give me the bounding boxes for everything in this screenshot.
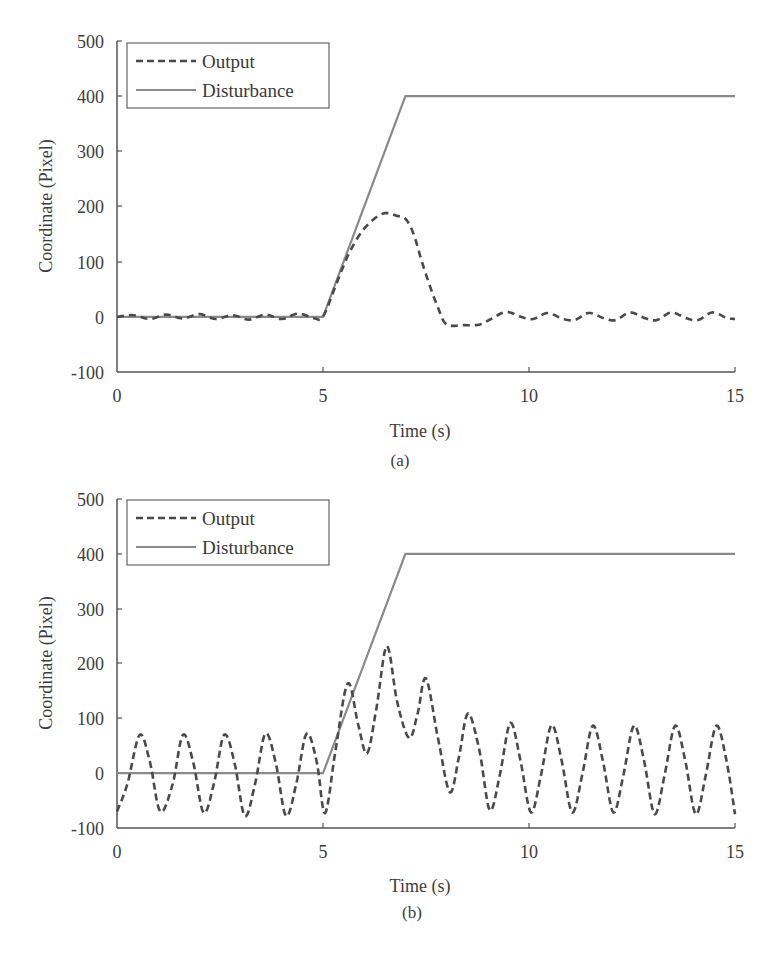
chart-a-xtick-labels: 0 5 10 15 bbox=[113, 386, 745, 406]
chart-b-ytick-labels: 500 400 300 200 100 0 -100 bbox=[71, 490, 104, 839]
ytick-label: 300 bbox=[77, 600, 104, 620]
disturbance-line bbox=[117, 554, 735, 773]
xtick-label: 5 bbox=[319, 842, 328, 862]
ytick-label: 200 bbox=[77, 197, 104, 217]
ytick-label: 400 bbox=[77, 545, 104, 565]
ytick-label: 100 bbox=[77, 253, 104, 273]
chart-b-xtick-labels: 0 5 10 15 bbox=[113, 842, 745, 862]
disturbance-line bbox=[117, 96, 735, 317]
xtick-label: 0 bbox=[113, 842, 122, 862]
xtick-label: 10 bbox=[520, 386, 538, 406]
ytick-label: 100 bbox=[77, 709, 104, 729]
figure-caption: (a) bbox=[391, 451, 410, 470]
legend-output-label: Output bbox=[202, 51, 256, 72]
figure-caption: (b) bbox=[402, 903, 422, 922]
xtick-label: 15 bbox=[726, 842, 744, 862]
legend-disturbance-label: Disturbance bbox=[202, 537, 294, 558]
ytick-label: 300 bbox=[77, 142, 104, 162]
chart-a-svg: 500 400 300 200 100 0 -100 0 5 10 15 Tim… bbox=[0, 0, 784, 485]
ytick-label: 500 bbox=[77, 32, 104, 52]
legend-output-label: Output bbox=[202, 508, 256, 529]
y-axis-label: Coordinate (Pixel) bbox=[36, 139, 57, 272]
output-line bbox=[117, 213, 735, 326]
x-axis-label: Time (s) bbox=[390, 876, 451, 897]
ytick-label: -100 bbox=[71, 819, 104, 839]
ytick-label: 500 bbox=[77, 490, 104, 510]
ytick-label: 200 bbox=[77, 654, 104, 674]
ytick-label: 0 bbox=[95, 764, 104, 784]
chart-a-ytick-labels: 500 400 300 200 100 0 -100 bbox=[71, 32, 104, 383]
xtick-label: 5 bbox=[319, 386, 328, 406]
legend-disturbance-label: Disturbance bbox=[202, 80, 294, 101]
ytick-label: 0 bbox=[95, 308, 104, 328]
x-axis-label: Time (s) bbox=[390, 421, 451, 442]
ytick-label: 400 bbox=[77, 87, 104, 107]
figure-b: 500 400 300 200 100 0 -100 0 5 10 15 Tim… bbox=[0, 485, 784, 969]
output-line bbox=[117, 646, 735, 816]
xtick-label: 10 bbox=[520, 842, 538, 862]
chart-b-svg: 500 400 300 200 100 0 -100 0 5 10 15 Tim… bbox=[0, 485, 784, 969]
chart-a-legend: Output Disturbance bbox=[127, 43, 329, 108]
ytick-label: -100 bbox=[71, 363, 104, 383]
y-axis-label: Coordinate (Pixel) bbox=[36, 596, 57, 729]
xtick-label: 15 bbox=[726, 386, 744, 406]
figure-a: 500 400 300 200 100 0 -100 0 5 10 15 Tim… bbox=[0, 0, 784, 485]
chart-b-legend: Output Disturbance bbox=[127, 500, 329, 565]
xtick-label: 0 bbox=[113, 386, 122, 406]
